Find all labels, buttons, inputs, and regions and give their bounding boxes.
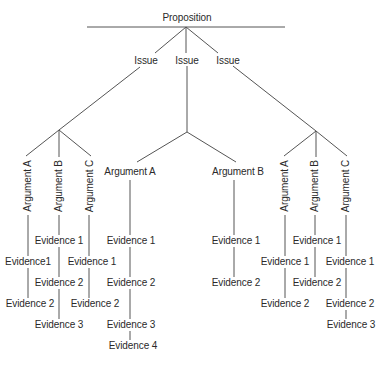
evidence-node: Evidence 1	[293, 236, 341, 246]
evidence-node: Evidence 2	[6, 299, 54, 309]
argument-node: Argument C	[341, 160, 351, 212]
edge-issue-1-junction	[59, 67, 140, 130]
evidence-node: Evidence 1	[107, 236, 155, 246]
evidence-node: Evidence 2	[212, 278, 260, 288]
evidence-node: Evidence 3	[35, 320, 83, 330]
evidence-node: Evidence 1	[68, 257, 116, 267]
evidence-node: Evidence 1	[261, 257, 309, 267]
argument-node: Argument B	[54, 160, 64, 212]
argument-node: Argument C	[85, 160, 95, 212]
evidence-node: Evidence 3	[327, 320, 375, 330]
edge-left-arg-a	[26, 130, 59, 156]
argument-node: Argument B	[212, 167, 264, 177]
issue-node-1: Issue	[134, 56, 157, 66]
evidence-node: Evidence 2	[261, 299, 309, 309]
evidence-node: Evidence 4	[109, 341, 157, 351]
edge-right-arg-c	[316, 131, 347, 156]
edge-mid-arg-b	[187, 132, 236, 162]
proposition-node: Proposition	[163, 13, 212, 23]
evidence-node: Evidence 3	[107, 320, 155, 330]
issue-node-3: Issue	[216, 56, 239, 66]
evidence-node: Evidence 2	[326, 299, 374, 309]
edge-root-issue-1	[155, 27, 186, 53]
evidence-node: Evidence 1	[212, 236, 260, 246]
edge-root-issue-3	[186, 27, 218, 53]
evidence-node: Evidence 2	[293, 278, 341, 288]
edge-mid-arg-a	[137, 132, 187, 162]
edge-issue-3-junction	[233, 66, 316, 131]
argument-node: Argument A	[104, 167, 155, 177]
edge-right-arg-a	[284, 131, 316, 156]
evidence-node: Evidence 2	[71, 299, 119, 309]
edge-left-arg-c	[59, 130, 91, 156]
evidence-node: Evidence 2	[107, 278, 155, 288]
evidence-node: Evidence 1	[35, 236, 83, 246]
evidence-node: Evidence 1	[326, 257, 374, 267]
argument-node: Argument B	[310, 160, 320, 212]
evidence-node: Evidence1	[5, 257, 51, 267]
argument-node: Argument A	[23, 160, 33, 211]
issue-node-2: Issue	[175, 56, 198, 66]
argument-node: Argument A	[280, 160, 290, 211]
evidence-node: Evidence 2	[35, 278, 83, 288]
